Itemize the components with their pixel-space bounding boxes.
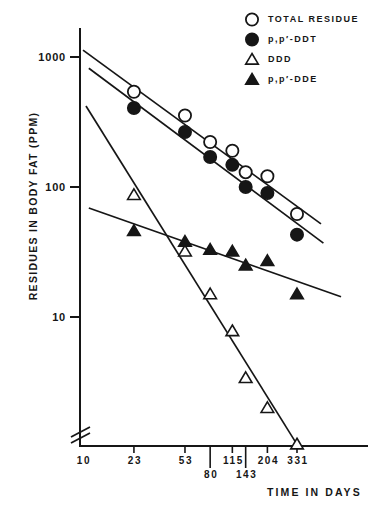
data-point-p-p-dde (226, 245, 239, 256)
data-point-ddd (239, 372, 252, 383)
data-point-total-residue (291, 208, 303, 220)
y-axis-title: RESIDUES IN BODY FAT (PPM) (27, 112, 39, 301)
legend-label: p,p′-DDT (268, 34, 317, 44)
data-point-p-p-ddt (204, 151, 216, 163)
triangle-open-glyph (243, 50, 261, 68)
data-point-ddd (226, 325, 239, 336)
legend-item-ddt: p,p′-DDT (243, 29, 359, 49)
data-point-ddd (291, 438, 304, 449)
legend-item-ddd: DDD (243, 49, 359, 69)
x-tick-label: 53 (179, 455, 193, 466)
data-point-p-p-dde (261, 255, 274, 266)
x-tick-label: 143 (236, 469, 258, 480)
data-point-p-p-ddt (226, 159, 238, 171)
open-circle-icon (243, 10, 261, 28)
data-point-total-residue (204, 136, 216, 148)
legend-item-dde: p,p′-DDE (243, 69, 359, 89)
x-tick-label: 115 (223, 455, 244, 466)
y-tick-label: 100 (45, 181, 66, 193)
triangle-filled-glyph (243, 70, 261, 88)
legend-item-total-residue: TOTAL RESIDUE (243, 9, 359, 29)
legend: TOTAL RESIDUE p,p′-DDT DDD p,p′-DDE (243, 9, 359, 89)
data-point-p-p-ddt (179, 126, 191, 138)
y-tick-label: 10 (52, 311, 66, 323)
x-tick-label: 204 (258, 455, 280, 466)
legend-label: p,p′-DDE (268, 74, 318, 84)
filled-circle-icon (243, 30, 261, 48)
x-tick-label: 23 (128, 455, 142, 466)
data-point-ddd (204, 288, 217, 299)
data-point-p-p-dde (291, 288, 304, 299)
data-point-total-residue (179, 109, 191, 121)
data-point-total-residue (240, 166, 252, 178)
y-tick-label: 1000 (38, 51, 66, 63)
circle-filled-marker-icon (246, 33, 258, 45)
circle-filled-glyph (243, 30, 261, 48)
fit-line-ddd (86, 106, 298, 446)
legend-label: TOTAL RESIDUE (268, 14, 359, 24)
x-axis-title: TIME IN DAYS (267, 486, 362, 498)
circle-open-marker-icon (246, 13, 258, 25)
x-tick-label: 80 (204, 469, 218, 480)
legend-label: DDD (268, 54, 292, 64)
data-point-total-residue (226, 145, 238, 157)
circle-open-glyph (243, 10, 261, 28)
open-triangle-icon (243, 50, 261, 68)
data-point-p-p-ddt (128, 102, 140, 114)
triangle-open-marker-icon (246, 54, 259, 65)
figure-page: 10001001010235380115143204331 RESIDUES I… (0, 0, 381, 510)
data-point-total-residue (128, 86, 140, 98)
triangle-filled-marker-icon (246, 74, 259, 85)
data-point-p-p-ddt (291, 229, 303, 241)
data-point-p-p-ddt (240, 181, 252, 193)
data-point-total-residue (261, 170, 273, 182)
data-point-p-p-ddt (261, 187, 273, 199)
data-point-p-p-dde (128, 225, 141, 236)
filled-triangle-icon (243, 70, 261, 88)
x-tick-label: 10 (77, 455, 91, 466)
x-tick-label: 331 (287, 455, 309, 466)
